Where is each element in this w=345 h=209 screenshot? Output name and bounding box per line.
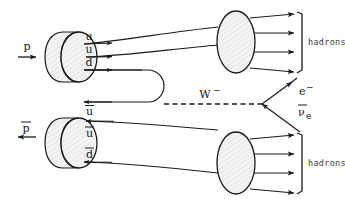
quark-label-d: d: [85, 56, 92, 69]
lepton-decay-lines: [262, 78, 300, 132]
hadron-arrows-top: [250, 14, 294, 72]
w-boson-label: W: [199, 88, 211, 101]
diagram-canvas: p p u u d u u d W − e −: [0, 0, 345, 209]
w-boson-label-group: W −: [199, 85, 220, 101]
antiproton-label: p: [22, 122, 29, 135]
quark-annihilation-uturn: [84, 70, 164, 102]
hadrons-label-top: hadrons: [308, 37, 345, 47]
w-boson-superscript: −: [213, 85, 221, 95]
antiquark-label-u1-group: u: [85, 105, 94, 118]
antiquark-label-d: d: [86, 148, 93, 161]
hadron-arrows-bottom: [250, 135, 294, 193]
antiquark-label-d-group: d: [85, 148, 94, 161]
electron-label: e: [299, 85, 306, 98]
antiquark-label-u2: u: [86, 127, 93, 140]
hadron-blob-top: [217, 11, 255, 73]
proton-quark-lines: [84, 27, 218, 70]
hadron-blob-bottom: [217, 132, 255, 194]
antineutrino-label-group: ν e: [298, 105, 311, 121]
electron-superscript: −: [306, 82, 314, 92]
hadron-bracket-top: [297, 12, 302, 73]
antiquark-label-u1: u: [86, 105, 93, 118]
feynman-diagram: p p u u d u u d W − e −: [0, 0, 345, 209]
electron-label-group: e −: [299, 82, 314, 98]
antineutrino-label: ν: [298, 106, 305, 119]
quark-label-u1: u: [85, 30, 92, 43]
hadron-bracket-bottom: [297, 133, 302, 194]
quark-label-u2: u: [85, 43, 92, 56]
proton-label: p: [23, 40, 30, 53]
antiproton-quark-lines: [84, 102, 218, 173]
antiproton-blob: [45, 118, 97, 168]
antiquark-label-u2-group: u: [85, 127, 94, 140]
antineutrino-subscript: e: [306, 111, 311, 121]
antiproton-label-group: p: [21, 122, 31, 135]
hadrons-label-bottom: hadrons: [308, 158, 345, 168]
